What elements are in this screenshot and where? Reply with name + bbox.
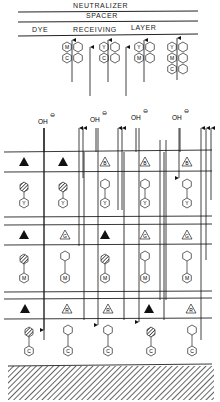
svg-text:C: C (149, 348, 153, 354)
svg-text:C: C (190, 348, 194, 354)
svg-text:C: C (106, 348, 110, 354)
svg-text:R: R (106, 307, 110, 313)
svg-text:C: C (65, 55, 69, 61)
layer-red-sensitive: R R R C C C C C (20, 304, 196, 356)
received-dye-group-2: Y C (100, 40, 120, 82)
header-rules (18, 11, 198, 36)
svg-text:C: C (102, 55, 106, 61)
svg-text:OH: OH (38, 118, 48, 125)
alkali-arrows-down (44, 128, 179, 330)
svg-text:M: M (170, 55, 174, 61)
svg-text:C: C (66, 348, 70, 354)
svg-text:OH: OH (90, 116, 100, 123)
svg-text:M: M (65, 44, 69, 50)
svg-text:⊖: ⊖ (184, 108, 189, 114)
received-dye-group-3: Y M (135, 40, 155, 82)
svg-text:⊖: ⊖ (50, 112, 55, 118)
svg-text:⊖: ⊖ (143, 108, 148, 114)
dye-diffusion-diagram: M C Y C Y M Y M C (0, 0, 220, 402)
svg-text:R: R (189, 307, 193, 313)
svg-text:M: M (63, 275, 67, 281)
svg-text:⊖: ⊖ (102, 110, 107, 116)
svg-text:OH: OH (131, 114, 141, 121)
svg-text:R: R (65, 307, 69, 313)
svg-text:M: M (143, 275, 147, 281)
svg-text:M: M (103, 275, 107, 281)
svg-text:G: G (143, 233, 147, 239)
svg-text:M: M (137, 55, 141, 61)
svg-text:M: M (185, 275, 189, 281)
film-base (8, 366, 214, 400)
alkali-labels: OH⊖ OH⊖ OH⊖ OH⊖ (38, 108, 189, 125)
svg-text:G: G (63, 233, 67, 239)
svg-text:C: C (170, 66, 174, 72)
svg-text:C: C (27, 348, 31, 354)
svg-text:M: M (22, 275, 26, 281)
received-dye-group-4: Y M C (168, 38, 188, 80)
svg-text:G: G (185, 233, 189, 239)
received-dye-group-1: M C (63, 40, 83, 82)
svg-text:OH: OH (172, 114, 182, 121)
receiving-dyes: M C Y C Y M Y M C (63, 38, 188, 96)
